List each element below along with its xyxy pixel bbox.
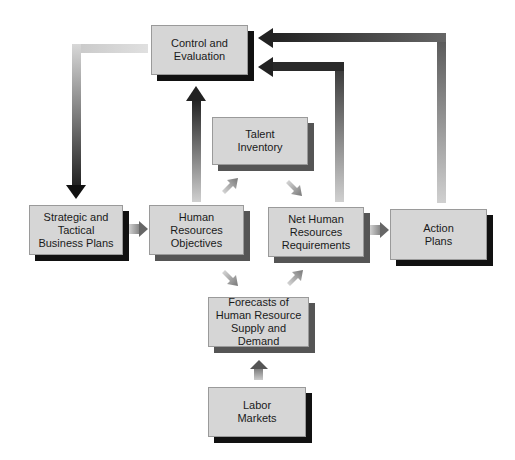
arrow-talent-to-nethr [286, 180, 302, 196]
node-control-evaluation: Control and Evaluation [151, 25, 248, 75]
arrow-objectives-to-control [192, 100, 201, 202]
node-label: Control and Evaluation [171, 37, 228, 63]
arrow-strategic-to-objectives [129, 224, 139, 234]
node-strategic-plans: Strategic and Tactical Business Plans [29, 205, 123, 255]
arrow-action-to-control-top [272, 33, 446, 42]
node-label: Talent Inventory [237, 128, 282, 154]
arrow-forecasts-to-nethr [287, 270, 303, 286]
node-label: Net Human Resources Requirements [282, 213, 350, 252]
node-hr-objectives: Human Resources Objectives [149, 205, 244, 255]
arrowhead-up-icon [250, 360, 268, 369]
arrowhead-left-icon [258, 57, 273, 77]
node-net-hr-requirements: Net Human Resources Requirements [268, 207, 364, 257]
arrow-labor-to-forecasts [254, 368, 263, 380]
node-talent-inventory: Talent Inventory [212, 117, 308, 165]
node-label: Strategic and Tactical Business Plans [38, 211, 113, 250]
arrow-objectives-to-forecasts [222, 270, 238, 286]
arrow-objectives-to-talent [222, 178, 238, 194]
arrow-nethr-to-control [335, 62, 344, 202]
node-forecasts: Forecasts of Human Resource Supply and D… [208, 297, 309, 347]
arrowhead-down-icon [66, 185, 86, 199]
node-label: Forecasts of Human Resource Supply and D… [209, 296, 308, 348]
node-labor-markets: Labor Markets [208, 387, 306, 437]
arrow-nethr-to-action [370, 225, 380, 235]
node-label: Labor Markets [237, 399, 276, 425]
arrow-control-to-strategic-top [72, 44, 148, 53]
arrowhead-right-icon [139, 221, 148, 237]
arrowhead-right-icon [380, 222, 389, 238]
arrow-action-to-control [437, 33, 446, 203]
arrowhead-up-icon [186, 86, 206, 101]
arrowhead-left-icon [258, 28, 273, 48]
node-label: Human Resources Objectives [170, 211, 223, 250]
arrow-control-to-strategic [72, 44, 81, 186]
arrow-nethr-to-control-top [272, 62, 344, 71]
node-label: Action Plans [423, 222, 454, 248]
node-action-plans: Action Plans [390, 209, 487, 260]
